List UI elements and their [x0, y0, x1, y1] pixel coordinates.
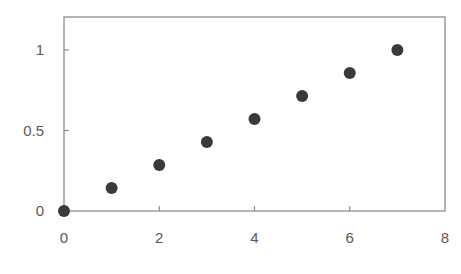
x-tick-label: 8	[441, 229, 449, 246]
y-tick-label: 0	[36, 202, 44, 219]
x-tick-label: 2	[155, 229, 163, 246]
x-axis: 02468	[60, 206, 449, 246]
data-point	[106, 182, 118, 194]
data-series	[58, 44, 403, 217]
y-tick-label: 1	[36, 41, 44, 58]
x-tick-label: 0	[60, 229, 68, 246]
data-point	[153, 159, 165, 171]
data-point	[201, 136, 213, 148]
y-tick-label: 0.5	[23, 122, 44, 139]
data-point	[391, 44, 403, 56]
x-tick-label: 6	[346, 229, 354, 246]
x-tick-label: 4	[250, 229, 258, 246]
data-point	[249, 113, 261, 125]
data-point	[344, 67, 356, 79]
data-point	[296, 90, 308, 102]
scatter-chart: 00.51 02468	[0, 0, 461, 274]
data-point	[58, 205, 70, 217]
y-axis: 00.51	[23, 41, 69, 219]
